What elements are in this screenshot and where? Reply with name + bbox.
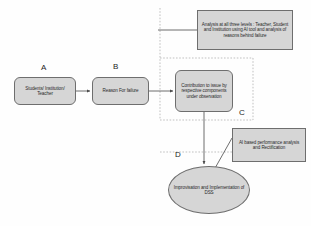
label-tag-a: A	[41, 63, 47, 72]
node-ai-based-performance[interactable]: AI based performance analysis and Rectif…	[232, 128, 306, 162]
node-analysis-three-levels[interactable]: Analysis at all three levels : Teacher, …	[197, 10, 293, 50]
node-c-label: Contribution to issue by respective comp…	[176, 83, 232, 99]
label-tag-b: B	[113, 62, 119, 71]
node-students-institution-teacher[interactable]: Students/ Institution/ Teacher	[14, 77, 76, 105]
node-ai-label: AI based performance analysis and Rectif…	[233, 140, 305, 151]
node-a-label: Students/ Institution/ Teacher	[15, 86, 75, 97]
node-dss-label: Improvisation and Implementation of DSS	[169, 185, 249, 196]
label-tag-d: D	[175, 150, 181, 159]
node-analysis-label: Analysis at all three levels : Teacher, …	[198, 22, 292, 38]
node-b-label: Reason For failure	[101, 88, 141, 93]
node-contribution-to-issue[interactable]: Contribution to issue by respective comp…	[175, 70, 233, 112]
node-improvisation-dss[interactable]: Improvisation and Implementation of DSS	[168, 166, 250, 214]
label-tag-c: C	[239, 108, 245, 117]
diagram-canvas: Students/ Institution/ Teacher A Reason …	[0, 0, 311, 226]
connector-ai-to-dss	[214, 138, 232, 170]
node-reason-for-failure[interactable]: Reason For failure	[92, 77, 149, 105]
